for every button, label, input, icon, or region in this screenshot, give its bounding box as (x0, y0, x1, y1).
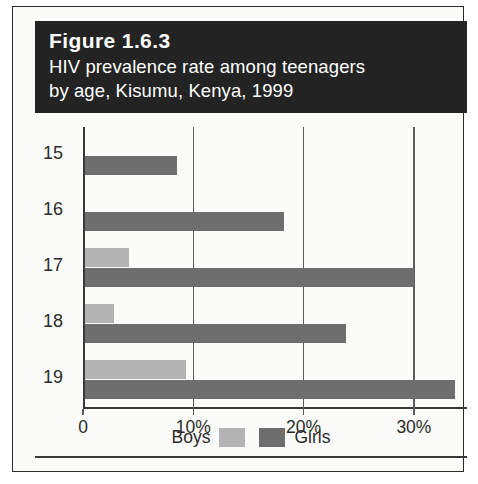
bar-boys-age-19 (85, 360, 186, 379)
bar-girls-age-15 (85, 156, 177, 175)
bar-boys-age-17 (85, 248, 129, 267)
figure-subtitle-line-1: HIV prevalence rate among teenagers (49, 55, 467, 79)
legend-swatch-girls-icon (259, 428, 285, 447)
legend-label-girls: Girls (294, 427, 330, 448)
legend-divider (35, 456, 467, 458)
bar-boys-age-18 (85, 304, 114, 323)
bar-girls-age-17 (85, 268, 414, 287)
y-axis-tick-label-age-16: 16 (43, 199, 63, 220)
x-tick-mark-0 (82, 409, 84, 415)
legend-entry-boys: Boys (172, 427, 246, 448)
figure-subtitle-line-2: by age, Kisumu, Kenya, 1999 (49, 79, 467, 103)
y-axis-tick-label-age-17: 17 (43, 255, 63, 276)
y-axis-tick-label-age-15: 15 (43, 143, 63, 164)
legend-swatch-boys-icon (219, 428, 245, 447)
legend-entry-girls: Girls (259, 427, 330, 448)
y-axis-tick-label-age-19: 19 (43, 367, 63, 388)
chart-legend: Boys Girls (35, 422, 467, 452)
legend-label-boys: Boys (172, 427, 211, 448)
figure-frame: Figure 1.6.3 HIV prevalence rate among t… (12, 6, 464, 472)
y-axis-tick-label-age-18: 18 (43, 311, 63, 332)
x-axis-line (83, 407, 467, 409)
bar-girls-age-16 (85, 212, 284, 231)
x-tick-mark-20 (303, 409, 305, 415)
bar-girls-age-19 (85, 380, 455, 399)
figure-title-banner: Figure 1.6.3 HIV prevalence rate among t… (35, 21, 467, 113)
x-tick-mark-10 (193, 409, 195, 415)
figure-number: Figure 1.6.3 (49, 28, 467, 54)
bar-chart-plot-area: 010%20%30%1516171819 (35, 119, 467, 409)
x-tick-mark-30 (413, 409, 415, 415)
figure-subtitle: HIV prevalence rate among teenagers by a… (49, 55, 467, 102)
bar-girls-age-18 (85, 324, 346, 343)
